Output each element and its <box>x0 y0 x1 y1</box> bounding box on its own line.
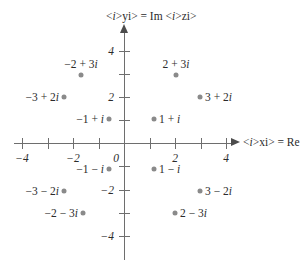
x-axis-line <box>14 143 232 144</box>
x-tick-2 <box>175 138 176 149</box>
point-dot--2-3i <box>81 211 86 216</box>
x-tick-3 <box>201 138 202 149</box>
point-dot--1-i <box>107 167 112 172</box>
point-label--3-2i: −3 − 2i <box>26 185 59 197</box>
y-tick--1 <box>119 166 130 167</box>
point-dot-3+2i <box>198 95 203 100</box>
x-axis-arrow-icon <box>231 138 240 146</box>
origin-label: 0 <box>113 152 119 164</box>
y-tick--4 <box>119 236 130 237</box>
x-tick--2 <box>73 138 74 149</box>
y-axis-caption: <i>yi> = Im <i>zi> <box>106 10 197 22</box>
point-dot-2+3i <box>174 73 179 78</box>
y-tick-1 <box>119 120 130 121</box>
point-label-3+2i: 3 + 2i <box>205 91 232 103</box>
point-dot-1-i <box>152 167 157 172</box>
y-tick-2 <box>119 97 130 98</box>
y-tick--3 <box>119 213 130 214</box>
point-dot-3-2i <box>198 189 203 194</box>
point-dot-1+i <box>152 117 157 122</box>
y-tick-label-2: 2 <box>92 91 114 103</box>
x-tick--1 <box>99 138 100 149</box>
y-tick--2 <box>119 190 130 191</box>
point-label--1-i: −1 − i <box>76 163 104 175</box>
point-dot-2-3i <box>173 211 178 216</box>
point-label-2+3i: 2 + 3i <box>163 58 190 70</box>
y-tick-label--2: −2 <box>92 184 114 196</box>
point-label-1+i: 1 + i <box>159 113 180 125</box>
point-label--1+i: −1 + i <box>76 113 104 125</box>
x-tick-1 <box>150 138 151 149</box>
x-axis-caption: <i>xi> = Re <i>zi> <box>243 136 300 148</box>
x-tick--3 <box>48 138 49 149</box>
y-tick-3 <box>119 74 130 75</box>
point-label--2-3i: −2 − 3i <box>45 207 78 219</box>
point-label-3-2i: 3 − 2i <box>205 185 232 197</box>
point-dot--1+i <box>107 117 112 122</box>
y-tick-label-4: 4 <box>92 45 114 57</box>
y-tick-label--4: −4 <box>92 230 114 242</box>
point-label-2-3i: 2 − 3i <box>180 207 207 219</box>
x-tick-4 <box>226 138 227 149</box>
point-label--3+2i: −3 + 2i <box>26 91 59 103</box>
x-tick-label--4: −4 <box>15 152 29 164</box>
y-axis-line <box>124 32 125 260</box>
complex-plane-figure: −4 −2 2 4 0 4 2 −2 −4 <i>xi> = Re <i>zi>… <box>0 0 300 272</box>
x-tick--4 <box>22 138 23 149</box>
x-tick-label-4: 4 <box>223 152 229 164</box>
point-dot--2+3i <box>79 73 84 78</box>
point-dot--3-2i <box>62 189 67 194</box>
point-label--2+3i: −2 + 3i <box>64 58 97 70</box>
point-label-1-i: 1 − i <box>159 163 180 175</box>
y-tick-4 <box>119 51 130 52</box>
point-dot--3+2i <box>62 95 67 100</box>
y-axis-arrow-icon <box>120 24 128 33</box>
